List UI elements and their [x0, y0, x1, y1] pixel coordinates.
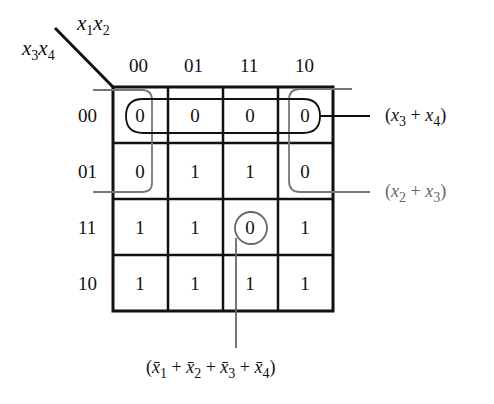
- column-label-11: 11: [240, 55, 258, 76]
- row-label-00: 00: [78, 105, 97, 126]
- karnaugh-map-diagram: x1x2 x3x4 00 01 11 10 00 01 11 10 0 0 0 …: [0, 0, 494, 404]
- row-label-10: 10: [78, 273, 97, 294]
- cell-r00-c10: 0: [300, 105, 310, 126]
- expression-x3-plus-x4: (x3 + x4): [385, 105, 446, 129]
- cell-r10-c01: 1: [190, 273, 200, 294]
- cell-r11-c01: 1: [190, 217, 200, 238]
- column-label-00: 00: [129, 55, 148, 76]
- cell-r10-c00: 1: [135, 273, 145, 294]
- cell-r11-c11: 0: [245, 217, 255, 238]
- cell-r10-c11: 1: [245, 273, 255, 294]
- row-label-01: 01: [78, 161, 97, 182]
- column-label-10: 10: [295, 55, 314, 76]
- cell-r01-c10: 0: [300, 161, 310, 182]
- row-variables-label: x3x4: [21, 36, 55, 63]
- row-label-11: 11: [78, 217, 96, 238]
- cell-r11-c10: 1: [300, 217, 310, 238]
- cell-r11-c00: 1: [135, 217, 145, 238]
- cell-r00-c01: 0: [190, 105, 200, 126]
- cell-r01-c01: 1: [190, 161, 200, 182]
- expression-complement-sum: (x̄1 + x̄2 + x̄3 + x̄4): [146, 357, 275, 381]
- cell-r10-c10: 1: [300, 273, 310, 294]
- cell-r01-c11: 1: [245, 161, 255, 182]
- column-variables-label: x1x2: [76, 11, 110, 38]
- cell-r01-c00: 0: [135, 161, 145, 182]
- cell-r00-c00: 0: [135, 105, 145, 126]
- cell-r00-c11: 0: [245, 105, 255, 126]
- column-label-01: 01: [184, 55, 203, 76]
- expression-x2-plus-x3: (x2 + x3): [385, 181, 446, 205]
